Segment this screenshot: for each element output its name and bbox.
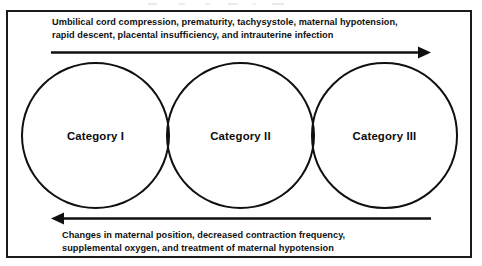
- circle-category-2-label: Category II: [210, 130, 271, 142]
- resuscitative-measures-line-1: Changes in maternal position, decreased …: [62, 229, 444, 242]
- deteriorating-factors-line-2: rapid descent, placental insufficiency, …: [52, 29, 444, 42]
- circle-category-3-label: Category III: [353, 130, 417, 142]
- scan-artifact-speckles: [0, 0, 482, 9]
- fetal-heart-rate-category-diagram: Umbilical cord compression, prematurity,…: [0, 0, 482, 266]
- circle-category-1: Category I: [21, 62, 170, 209]
- deteriorating-factors-caption: Umbilical cord compression, prematurity,…: [52, 16, 444, 42]
- circle-category-2: Category II: [166, 62, 315, 209]
- resuscitative-measures-caption: Changes in maternal position, decreased …: [62, 229, 444, 255]
- deteriorating-factors-line-1: Umbilical cord compression, prematurity,…: [52, 16, 444, 29]
- circle-category-1-label: Category I: [67, 130, 124, 142]
- resuscitative-measures-line-2: supplemental oxygen, and treatment of ma…: [62, 242, 444, 255]
- circle-category-3: Category III: [311, 62, 458, 209]
